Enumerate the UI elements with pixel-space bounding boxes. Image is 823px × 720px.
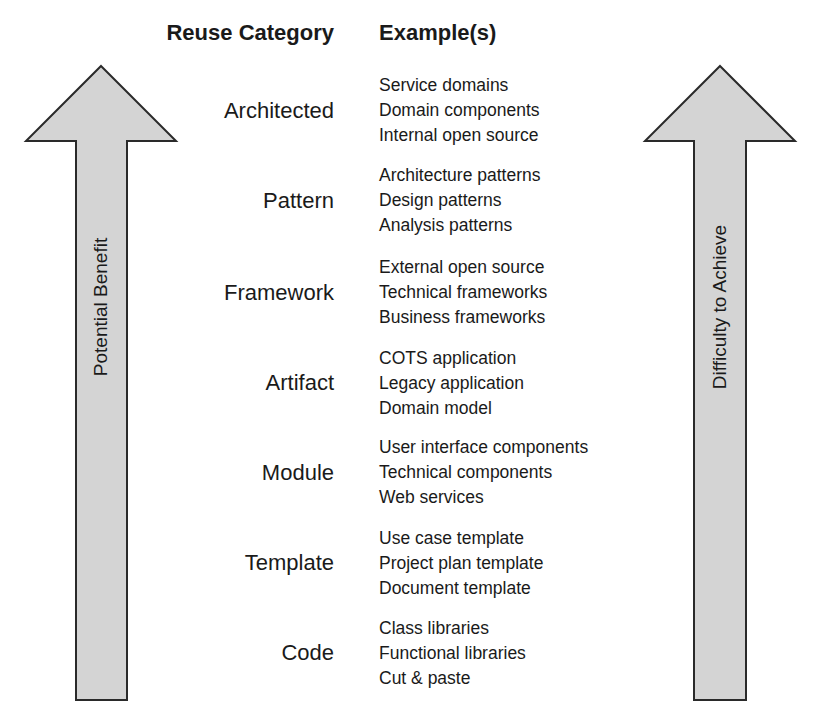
examples-artifact: COTS application Legacy application Doma… <box>379 346 524 421</box>
example-item: Functional libraries <box>379 641 526 666</box>
example-item: External open source <box>379 255 547 280</box>
category-framework: Framework <box>224 280 334 306</box>
category-pattern: Pattern <box>263 188 334 214</box>
examples-module: User interface components Technical comp… <box>379 435 588 510</box>
example-item: Architecture patterns <box>379 163 540 188</box>
example-item: Design patterns <box>379 188 540 213</box>
example-item: Business frameworks <box>379 305 547 330</box>
example-item: Service domains <box>379 73 540 98</box>
example-item: Technical frameworks <box>379 280 547 305</box>
example-item: COTS application <box>379 346 524 371</box>
examples-template: Use case template Project plan template … <box>379 526 543 601</box>
example-item: Project plan template <box>379 551 543 576</box>
up-arrow-left-icon <box>26 66 176 700</box>
reuse-category-header: Reuse Category <box>166 20 334 46</box>
example-item: Class libraries <box>379 616 526 641</box>
example-item: Internal open source <box>379 123 540 148</box>
example-item: User interface components <box>379 435 588 460</box>
example-item: Cut & paste <box>379 666 526 691</box>
example-item: Domain model <box>379 396 524 421</box>
example-item: Web services <box>379 485 588 510</box>
category-template: Template <box>245 550 334 576</box>
example-item: Domain components <box>379 98 540 123</box>
potential-benefit-label: Potential Benefit <box>90 238 112 376</box>
category-artifact: Artifact <box>266 370 334 396</box>
examples-framework: External open source Technical framework… <box>379 255 547 330</box>
example-item: Document template <box>379 576 543 601</box>
example-item: Technical components <box>379 460 588 485</box>
category-module: Module <box>262 460 334 486</box>
examples-pattern: Architecture patterns Design patterns An… <box>379 163 540 238</box>
category-code: Code <box>281 640 334 666</box>
example-item: Use case template <box>379 526 543 551</box>
examples-architected: Service domains Domain components Intern… <box>379 73 540 148</box>
example-item: Legacy application <box>379 371 524 396</box>
examples-code: Class libraries Functional libraries Cut… <box>379 616 526 691</box>
example-item: Analysis patterns <box>379 213 540 238</box>
examples-header: Example(s) <box>379 20 496 46</box>
difficulty-to-achieve-label: Difficulty to Achieve <box>709 225 731 389</box>
category-architected: Architected <box>224 98 334 124</box>
